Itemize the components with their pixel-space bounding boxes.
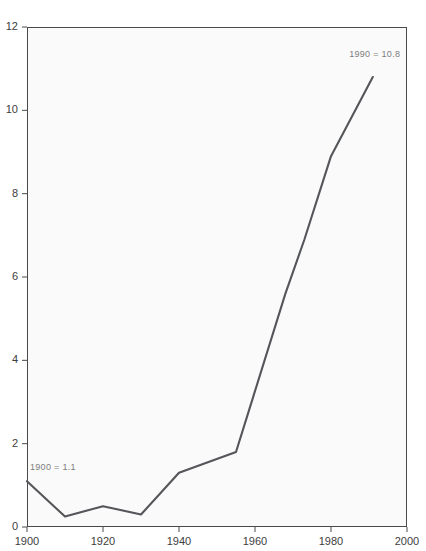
- x-axis-tick-label: 1940: [156, 536, 202, 547]
- y-axis-tick-label: 2: [0, 438, 18, 449]
- y-axis-tick-label: 6: [0, 271, 18, 282]
- y-axis-ticks: [22, 27, 27, 527]
- x-axis-tick-label: 1920: [80, 536, 126, 547]
- x-axis-tick-label: 2000: [384, 536, 426, 547]
- y-axis-tick-label: 0: [0, 521, 18, 532]
- chart-container: 024681012 190019201940196019802000 1900 …: [0, 0, 426, 551]
- y-axis-tick-label: 8: [0, 188, 18, 199]
- chart-annotation-label: 1900 = 1.1: [30, 462, 76, 472]
- x-axis-tick-label: 1900: [4, 536, 50, 547]
- y-axis-tick-label: 4: [0, 354, 18, 365]
- x-axis-tick-label: 1960: [232, 536, 278, 547]
- x-axis-ticks: [27, 527, 407, 532]
- chart-annotation-label: 1990 = 10.8: [349, 49, 400, 59]
- y-axis-tick-label: 10: [0, 104, 18, 115]
- y-axis-tick-label: 12: [0, 21, 18, 32]
- data-series-line: [27, 77, 373, 517]
- x-axis-tick-label: 1980: [308, 536, 354, 547]
